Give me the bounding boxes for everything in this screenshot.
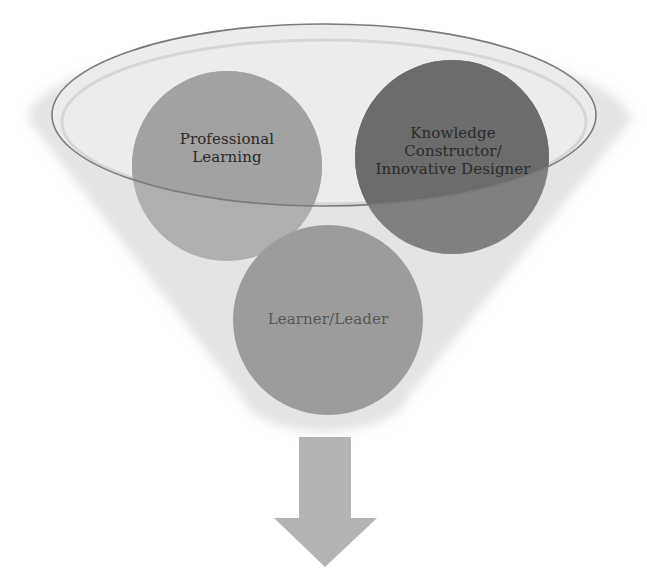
label-professional-learning: Professional Learning (147, 130, 307, 166)
funnel-diagram (0, 0, 647, 583)
label-learner-leader: Learner/Leader (240, 310, 416, 328)
arrow-down-icon (274, 437, 377, 567)
label-knowledge-constructor: Knowledge Constructor/ Innovative Design… (362, 124, 544, 178)
